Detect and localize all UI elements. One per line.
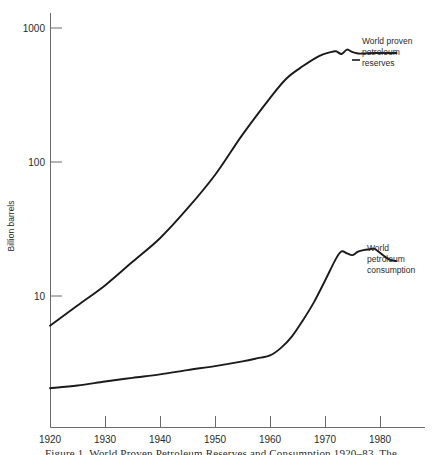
axis-group xyxy=(51,13,426,428)
x-tick-label: 1920 xyxy=(39,434,62,445)
y-tick-label-group: 101001000 xyxy=(23,23,46,302)
x-tick-label: 1980 xyxy=(369,434,392,445)
figure-petroleum-reserves-consumption: 101001000 1920193019401950196019701980 B… xyxy=(0,0,442,455)
y-tick-label: 100 xyxy=(28,157,45,168)
y-axis-title: Billion barrels xyxy=(6,200,16,251)
x-tick-label-group: 1920193019401950196019701980 xyxy=(39,434,392,445)
x-tick-label: 1940 xyxy=(149,434,172,445)
x-tick-label: 1950 xyxy=(204,434,227,445)
x-tick-label: 1930 xyxy=(94,434,117,445)
series-line-consumption xyxy=(50,249,397,389)
series-label-reserves: World proven petroleum reserves xyxy=(362,36,440,69)
y-tick-label: 10 xyxy=(34,291,46,302)
x-tick-group xyxy=(51,416,381,428)
x-tick-label: 1960 xyxy=(259,434,282,445)
x-tick-label: 1970 xyxy=(314,434,337,445)
y-tick-group xyxy=(51,28,63,296)
figure-caption: Figure 1. World Proven Petroleum Reserve… xyxy=(0,447,442,455)
series-label-consumption: World petroleum consumption xyxy=(367,243,439,276)
series-line-reserves xyxy=(50,50,397,326)
y-tick-label: 1000 xyxy=(23,23,46,34)
